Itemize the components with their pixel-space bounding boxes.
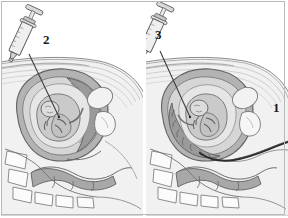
callout-label-3: 3 — [155, 28, 162, 41]
pubic-bone-right — [240, 111, 261, 136]
right-panel — [146, 1, 288, 216]
pubic-bone-left — [95, 111, 116, 136]
callout-label-1: 1 — [273, 101, 280, 114]
medical-illustration-figure: 2 3 1 — [0, 0, 288, 218]
fetus-right — [186, 94, 227, 140]
callout-label-2: 2 — [43, 33, 50, 46]
left-panel — [1, 1, 143, 216]
